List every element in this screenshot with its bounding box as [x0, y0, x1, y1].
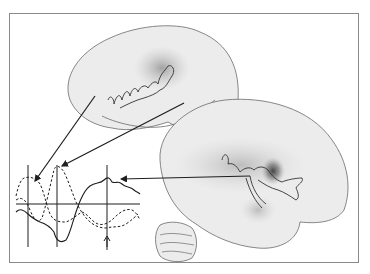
lower-activation-wide: [175, 137, 305, 193]
lower-activation-focus: [261, 157, 285, 185]
upper-activation: [134, 46, 190, 90]
figure: [0, 0, 370, 274]
lower-activation-secondary: [240, 196, 276, 224]
cerebellum: [156, 222, 197, 261]
